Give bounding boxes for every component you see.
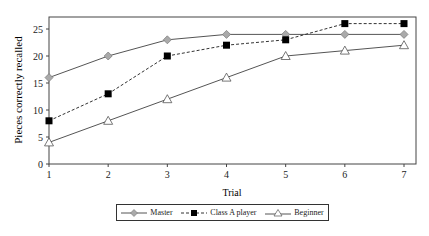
x-axis-label: Trial	[222, 187, 241, 198]
x-tick-label: 6	[342, 169, 347, 180]
square-marker	[164, 53, 171, 60]
diamond-marker-icon	[121, 209, 147, 217]
diamond-marker	[223, 30, 231, 38]
triangle-marker	[400, 41, 409, 49]
y-axis-label: Pieces correctly recalled	[12, 36, 24, 144]
triangle-marker	[163, 95, 172, 103]
diamond-marker	[104, 52, 112, 60]
square-marker	[223, 42, 230, 49]
square-marker	[341, 20, 348, 27]
x-tick-label: 7	[402, 169, 407, 180]
x-tick-label: 3	[165, 169, 170, 180]
legend-item-beginner: Beginner	[265, 208, 323, 217]
y-tick-label: 0	[38, 159, 43, 170]
diamond-marker	[45, 74, 53, 82]
legend-label: Beginner	[294, 208, 323, 217]
diamond-marker	[163, 36, 171, 44]
plot-frame	[49, 17, 416, 164]
triangle-marker	[222, 73, 231, 81]
x-tick-label: 1	[47, 169, 52, 180]
x-tick-label: 2	[106, 169, 111, 180]
legend-item-master: Master	[121, 208, 172, 217]
y-tick-label: 5	[38, 132, 43, 143]
diamond-marker	[341, 30, 349, 38]
square-marker	[105, 90, 112, 97]
legend-label: Master	[150, 208, 172, 217]
y-tick-label: 25	[33, 24, 43, 35]
square-marker	[401, 20, 408, 27]
series-line-master	[49, 34, 404, 77]
legend-item-class-a: Class A player	[181, 208, 256, 217]
x-tick-label: 5	[283, 169, 288, 180]
diamond-marker	[400, 30, 408, 38]
square-marker-icon	[181, 209, 207, 217]
triangle-marker	[45, 138, 54, 146]
series-group	[45, 20, 409, 146]
plot-area: 05101520251234567	[33, 17, 416, 180]
square-marker	[282, 36, 289, 43]
legend-label: Class A player	[210, 208, 256, 217]
x-tick-label: 4	[224, 169, 229, 180]
triangle-marker-icon	[265, 209, 291, 217]
y-tick-label: 20	[33, 51, 43, 62]
square-marker	[46, 117, 53, 124]
y-tick-label: 15	[33, 78, 43, 89]
legend: Master Class A player Beginner	[116, 204, 329, 221]
line-chart: 05101520251234567 Pieces correctly recal…	[0, 0, 429, 236]
series-line-beginner	[49, 45, 404, 142]
triangle-marker	[104, 116, 113, 124]
y-tick-label: 10	[33, 105, 43, 116]
